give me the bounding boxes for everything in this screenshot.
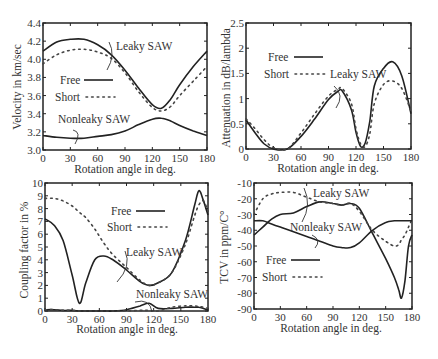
- tcv-series-line: [254, 192, 412, 246]
- coupling-legend-short: Short: [107, 221, 133, 233]
- tcv-xtick: 0: [251, 311, 257, 323]
- attenuation-ytick: 1: [239, 93, 245, 105]
- coupling-xtick: 180: [200, 313, 217, 325]
- tcv-ytick: -90: [237, 303, 252, 315]
- attenuation-xtick: 180: [403, 151, 420, 163]
- tcv-ylabel: TCV in ppm/C°: [218, 210, 231, 284]
- velocity-legend-short: Short: [55, 91, 81, 103]
- velocity-ytick: 3.8: [27, 71, 41, 83]
- velocity-ytick: 3.6: [27, 90, 41, 102]
- coupling-panel: 0306090120150180012345678910: [32, 177, 217, 325]
- coupling-ytick: 8: [38, 203, 44, 215]
- velocity-ytick: 3.2: [27, 126, 41, 138]
- coupling-ytick: 0: [38, 305, 44, 317]
- tcv-legend-free: Free: [266, 254, 286, 266]
- coupling-ytick: 1: [38, 292, 44, 304]
- tcv-annotation-nonleaky-bracket: [312, 235, 318, 248]
- tcv-ytick: -40: [237, 224, 252, 236]
- tcv-series-line: [254, 202, 412, 298]
- coupling-legend-free: Free: [111, 205, 131, 217]
- coupling-annotation-nonleaky: Nonleaky SAW: [136, 288, 208, 301]
- tcv-xlabel: Rotation angle in deg.: [280, 322, 382, 335]
- attenuation-legend-short: Short: [264, 68, 290, 80]
- velocity-xtick: 180: [199, 152, 216, 164]
- coupling-annotation-leaky: Leaky SAW: [126, 246, 182, 259]
- attenuation-annotation-leaky: Leaky SAW: [330, 68, 386, 81]
- coupling-ytick: 10: [32, 177, 44, 189]
- figure: 03060901201501803.03.23.43.63.84.04.24.4…: [0, 0, 438, 359]
- attenuation-plot-frame: [246, 23, 411, 149]
- attenuation-ytick: 0.5: [230, 118, 244, 130]
- attenuation-xlabel: Rotation angle in deg.: [277, 162, 379, 175]
- attenuation-xtick: 0: [243, 151, 249, 163]
- velocity-ytick: 3.0: [27, 144, 41, 156]
- tcv-ytick: -60: [237, 256, 252, 268]
- velocity-ytick: 4.4: [27, 17, 41, 29]
- velocity-xtick: 0: [40, 152, 46, 164]
- velocity-ytick: 4.0: [27, 53, 41, 65]
- coupling-ytick: 5: [38, 241, 44, 253]
- velocity-xlabel: Rotation angle in deg.: [74, 163, 176, 176]
- attenuation-series-line: [246, 81, 411, 150]
- tcv-annotation-leaky: Leaky SAW: [313, 187, 369, 200]
- tcv-legend-short: Short: [262, 271, 288, 283]
- coupling-ytick: 2: [38, 279, 44, 291]
- coupling-ylabel: Coupling factor in %: [18, 201, 31, 298]
- velocity-annotation-leaky: Leaky SAW: [116, 40, 172, 53]
- tcv-ytick: -70: [237, 272, 252, 284]
- coupling-xlabel: Rotation angle in deg.: [76, 323, 178, 336]
- tcv-ytick: -10: [237, 177, 252, 189]
- coupling-xtick: 0: [42, 313, 48, 325]
- attenuation-ylabel: Attenuation in dB/lambda: [220, 28, 232, 147]
- coupling-ytick: 6: [38, 228, 44, 240]
- coupling-ytick: 3: [38, 267, 44, 279]
- tcv-ytick: -50: [237, 240, 252, 252]
- attenuation-ytick: 1.5: [230, 67, 244, 79]
- coupling-ytick: 4: [38, 254, 44, 266]
- tcv-xtick: 180: [404, 311, 421, 323]
- attenuation-ytick: 2: [239, 42, 245, 54]
- coupling-ytick: 7: [38, 215, 44, 227]
- velocity-annotation-nonleaky: Nonleaky SAW: [58, 113, 130, 126]
- attenuation-ytick: 2.5: [230, 17, 244, 29]
- velocity-ytick: 4.2: [27, 35, 41, 47]
- tcv-annotation-nonleaky: Nonleaky SAW: [290, 221, 362, 234]
- attenuation-legend-free: Free: [268, 51, 288, 63]
- velocity-ytick: 3.4: [27, 108, 41, 120]
- tcv-ytick: -20: [237, 193, 252, 205]
- coupling-ytick: 9: [38, 190, 44, 202]
- tcv-annotation-leaky-bracket: [302, 188, 308, 222]
- attenuation-ytick: 0: [239, 143, 245, 155]
- attenuation-panel: 030609012015018000.511.522.5: [230, 17, 420, 163]
- tcv-ytick: -30: [237, 209, 252, 221]
- velocity-ylabel: Velocity in km/sec: [11, 44, 24, 130]
- velocity-annotation-nonleaky-bracket: [73, 130, 78, 144]
- velocity-legend-free: Free: [60, 74, 80, 86]
- tcv-ytick: -80: [237, 287, 252, 299]
